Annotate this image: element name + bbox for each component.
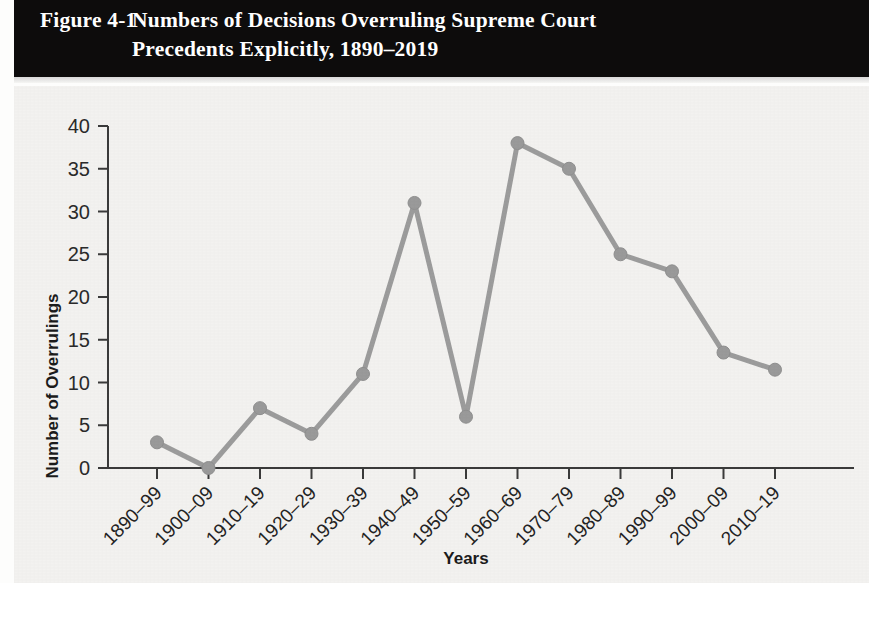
figure-number: Figure 4-1 <box>14 6 132 35</box>
data-point <box>305 427 318 440</box>
y-tick-label: 0 <box>79 457 90 479</box>
data-point <box>254 402 267 415</box>
data-point <box>563 162 576 175</box>
y-tick-label: 20 <box>68 286 90 308</box>
chart-region: Number of Overrulings 0510152025303540 1… <box>14 86 869 583</box>
y-tick-label: 40 <box>68 115 90 137</box>
y-tick-label: 30 <box>68 201 90 223</box>
banner-edge-shadow <box>14 77 869 83</box>
x-axis-ticks: 1890–991900–091910–191920–291930–391940–… <box>99 468 784 549</box>
figure-title-line-1: Numbers of Decisions Overruling Supreme … <box>132 8 596 32</box>
y-tick-label: 5 <box>79 414 90 436</box>
data-point <box>357 367 370 380</box>
figure-title-banner: Figure 4-1 Numbers of Decisions Overruli… <box>14 0 869 77</box>
data-point <box>717 346 730 359</box>
y-tick-label: 10 <box>68 372 90 394</box>
data-point <box>202 462 215 475</box>
figure-title-line-2: Precedents Explicitly, 1890–2019 <box>132 35 849 64</box>
y-axis-ticks: 0510152025303540 <box>68 115 108 479</box>
y-tick-label: 35 <box>68 158 90 180</box>
y-tick-label: 25 <box>68 243 90 265</box>
line-chart: Number of Overrulings 0510152025303540 1… <box>14 86 869 583</box>
data-point <box>151 436 164 449</box>
data-point <box>769 363 782 376</box>
data-point <box>614 248 627 261</box>
data-point <box>460 410 473 423</box>
figure-title: Numbers of Decisions Overruling Supreme … <box>132 6 869 64</box>
data-point <box>666 265 679 278</box>
y-tick-label: 15 <box>68 329 90 351</box>
y-axis-title: Number of Overrulings <box>43 293 62 478</box>
data-point <box>511 137 524 150</box>
figure-title-row: Figure 4-1 Numbers of Decisions Overruli… <box>14 6 869 64</box>
x-axis-title: Years <box>443 549 488 568</box>
figure-page: Figure 4-1 Numbers of Decisions Overruli… <box>0 0 869 627</box>
page-footer-blank <box>0 583 869 627</box>
data-point <box>408 196 421 209</box>
